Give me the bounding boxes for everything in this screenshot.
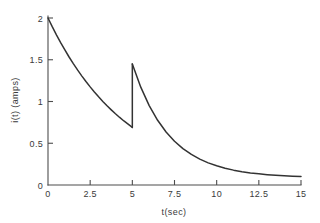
y-axis-title: i(t) (amps) (10, 77, 20, 122)
chart-svg: 00.511.52 02.557.51012.515 t(sec) i(t) (… (0, 0, 320, 223)
x-tick-label: 10 (211, 189, 222, 199)
y-tick-label: 2 (38, 14, 43, 24)
y-tick-label: 1.5 (30, 55, 43, 65)
y-tick-label: 1 (38, 97, 43, 107)
x-tick-label: 2.5 (83, 189, 96, 199)
x-tick-label: 12.5 (249, 189, 268, 199)
x-tick-label: 5 (130, 189, 135, 199)
x-tick-label: 7.5 (168, 189, 181, 199)
y-tick-label: 0 (38, 181, 43, 191)
chart-figure: 00.511.52 02.557.51012.515 t(sec) i(t) (… (0, 0, 320, 223)
x-axis-title: t(sec) (162, 207, 187, 217)
x-tick-label: 0 (45, 189, 50, 199)
y-tick-label: 0.5 (30, 139, 43, 149)
x-tick-label: 15 (296, 189, 307, 199)
x-axis-tick-labels: 02.557.51012.515 (45, 189, 306, 199)
